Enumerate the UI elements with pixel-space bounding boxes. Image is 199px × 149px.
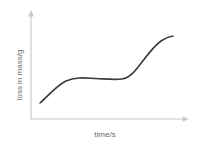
y-axis-label: loss in mass/g <box>15 50 24 101</box>
x-axis-label: time/s <box>94 130 115 139</box>
y-axis-arrow-icon <box>28 10 34 17</box>
line-chart: time/s loss in mass/g <box>0 0 199 149</box>
data-curve <box>40 36 173 103</box>
x-axis-arrow-icon <box>183 116 190 122</box>
y-axis <box>28 10 34 119</box>
chart-container: time/s loss in mass/g <box>0 0 199 149</box>
x-axis <box>31 116 189 122</box>
